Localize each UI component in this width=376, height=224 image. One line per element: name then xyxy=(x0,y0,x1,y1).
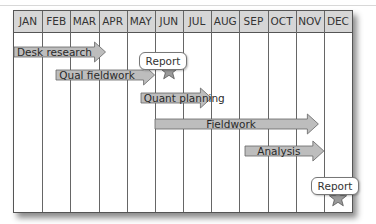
task-bar-analysis: Analysis xyxy=(245,143,324,159)
month-gridline xyxy=(268,11,269,212)
month-gridline xyxy=(70,11,71,212)
gantt-chart: JANFEBMARAPRMAYJUNJULAUGSEPOCTNOVDEC Des… xyxy=(13,10,353,213)
milestone-callout: Report xyxy=(139,52,187,70)
task-label: Desk research xyxy=(14,44,98,60)
month-gridline xyxy=(99,11,100,212)
month-gridline xyxy=(42,11,43,212)
task-label: Fieldwork xyxy=(155,116,307,132)
month-label-feb: FEB xyxy=(42,11,70,32)
top-divider xyxy=(0,5,376,6)
task-label: Quant planning xyxy=(141,90,203,106)
task-bar-quant-planning: Quant planning xyxy=(141,90,211,106)
month-gridline xyxy=(211,11,212,212)
task-bar-fieldwork: Fieldwork xyxy=(155,116,318,132)
task-bar-qual-fieldwork: Qual fieldwork xyxy=(56,67,155,83)
task-label: Qual fieldwork xyxy=(56,67,147,83)
month-label-jul: JUL xyxy=(183,11,211,32)
month-label-apr: APR xyxy=(99,11,127,32)
month-gridline xyxy=(127,11,128,212)
month-label-aug: AUG xyxy=(211,11,239,32)
month-gridline xyxy=(239,11,240,212)
month-gridline xyxy=(155,11,156,212)
month-gridline xyxy=(183,11,184,212)
task-bar-desk-research: Desk research xyxy=(14,44,106,60)
month-label-may: MAY xyxy=(127,11,155,32)
month-label-dec: DEC xyxy=(324,11,352,32)
month-label-sep: SEP xyxy=(239,11,267,32)
month-label-jan: JAN xyxy=(14,11,42,32)
task-label: Analysis xyxy=(245,143,313,159)
month-label-jun: JUN xyxy=(155,11,183,32)
month-label-nov: NOV xyxy=(296,11,324,32)
milestone-callout: Report xyxy=(311,177,359,195)
month-gridline xyxy=(296,11,297,212)
month-label-mar: MAR xyxy=(70,11,98,32)
month-label-oct: OCT xyxy=(268,11,296,32)
